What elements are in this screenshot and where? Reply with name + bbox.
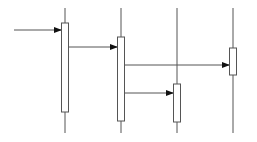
lifelines [65, 8, 233, 133]
activation-box-1 [62, 23, 69, 112]
activations [62, 23, 237, 122]
sequence-diagram [0, 0, 257, 142]
activation-box-2 [118, 37, 125, 121]
activation-box-3 [174, 84, 181, 122]
activation-box-4 [230, 48, 237, 75]
